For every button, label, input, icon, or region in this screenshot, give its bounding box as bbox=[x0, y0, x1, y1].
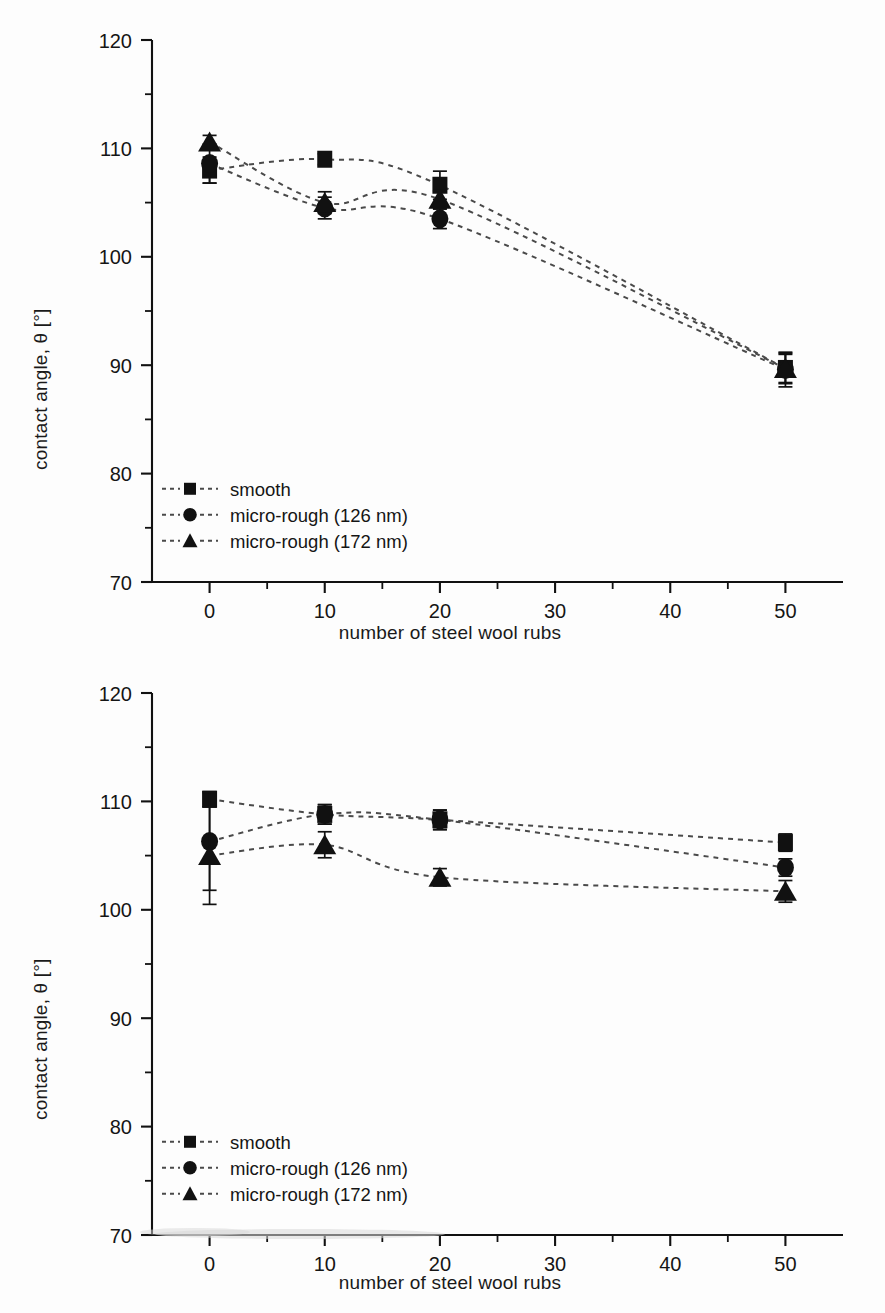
y-tick-label: 90 bbox=[110, 355, 132, 377]
legend-label: micro-rough (172 nm) bbox=[230, 531, 408, 552]
chart-panel-top: 70809010011012001020304050smoothmicro-ro… bbox=[0, 0, 885, 660]
legend-marker-square bbox=[184, 483, 196, 495]
series-lines bbox=[210, 799, 786, 891]
legend-marker-square bbox=[184, 1136, 196, 1148]
marker-circle bbox=[777, 858, 794, 877]
legend-label: micro-rough (126 nm) bbox=[230, 505, 408, 526]
legend-label: micro-rough (126 nm) bbox=[230, 1158, 408, 1179]
legend-marker-triangle bbox=[183, 1186, 198, 1200]
plot-area-top: 70809010011012001020304050smoothmicro-ro… bbox=[0, 0, 885, 660]
marker-triangle bbox=[198, 131, 221, 151]
y-tick-label: 80 bbox=[110, 463, 132, 485]
marker-square bbox=[317, 151, 332, 168]
legend-label: micro-rough (172 nm) bbox=[230, 1184, 408, 1205]
series-line bbox=[210, 799, 786, 842]
scan-smudge bbox=[140, 1228, 250, 1236]
x-tick-label: 50 bbox=[774, 600, 796, 622]
series-lines bbox=[210, 142, 786, 370]
marker-triangle bbox=[198, 845, 221, 865]
legend-item[interactable]: smooth bbox=[162, 1132, 291, 1153]
marker-triangle bbox=[313, 192, 336, 212]
y-tick-label: 110 bbox=[100, 138, 132, 160]
marker-circle bbox=[201, 154, 218, 173]
data-point bbox=[313, 832, 336, 858]
y-tick-label: 110 bbox=[100, 791, 132, 813]
x-tick-label: 30 bbox=[544, 600, 566, 622]
plot-area-bottom: 70809010011012001020304050smoothmicro-ro… bbox=[0, 660, 885, 1313]
data-points bbox=[198, 131, 797, 386]
legend-item[interactable]: micro-rough (126 nm) bbox=[162, 1158, 408, 1179]
legend: smoothmicro-rough (126 nm)micro-rough (1… bbox=[162, 479, 408, 552]
y-tick-label: 100 bbox=[99, 246, 132, 268]
marker-triangle bbox=[428, 189, 451, 209]
y-tick-label: 70 bbox=[110, 1225, 132, 1247]
marker-circle bbox=[431, 810, 448, 829]
data-point bbox=[198, 807, 221, 905]
legend-item[interactable]: smooth bbox=[162, 479, 291, 500]
legend-item[interactable]: micro-rough (172 nm) bbox=[162, 1184, 408, 1205]
y-tick-label: 90 bbox=[110, 1008, 132, 1030]
axes-group: 70809010011012001020304050 bbox=[99, 683, 843, 1276]
chart-panel-bottom: 70809010011012001020304050smoothmicro-ro… bbox=[0, 660, 885, 1313]
series-line bbox=[210, 812, 786, 867]
y-tick-label: 120 bbox=[99, 30, 132, 52]
legend: smoothmicro-rough (126 nm)micro-rough (1… bbox=[162, 1132, 408, 1205]
axes-group: 70809010011012001020304050 bbox=[99, 30, 843, 623]
x-axis-label-bottom: number of steel wool rubs bbox=[60, 1272, 840, 1294]
y-axis-label-top: contact angle, θ [°] bbox=[30, 308, 52, 470]
legend-item[interactable]: micro-rough (126 nm) bbox=[162, 505, 408, 526]
data-point bbox=[428, 867, 451, 887]
y-tick-label: 80 bbox=[110, 1116, 132, 1138]
x-tick-label: 0 bbox=[204, 600, 215, 622]
y-axis-label-bottom: contact angle, θ [°] bbox=[30, 958, 52, 1120]
x-tick-label: 10 bbox=[314, 600, 336, 622]
marker-square bbox=[778, 834, 793, 851]
legend-label: smooth bbox=[230, 1132, 291, 1153]
y-tick-label: 120 bbox=[99, 683, 132, 705]
x-tick-label: 20 bbox=[429, 600, 451, 622]
legend-marker-triangle bbox=[183, 533, 198, 547]
data-point bbox=[778, 834, 793, 851]
data-point bbox=[313, 192, 336, 214]
scan-artifact bbox=[140, 1228, 445, 1239]
data-point bbox=[198, 131, 221, 151]
data-point bbox=[431, 209, 448, 229]
series-line bbox=[210, 159, 786, 369]
axis-spine bbox=[152, 40, 843, 582]
legend-label: smooth bbox=[230, 479, 291, 500]
marker-circle bbox=[431, 209, 448, 228]
marker-triangle bbox=[313, 834, 336, 854]
series-line bbox=[210, 142, 786, 369]
marker-triangle bbox=[428, 867, 451, 887]
x-tick-label: 40 bbox=[659, 600, 681, 622]
marker-circle bbox=[316, 805, 333, 824]
figure-page: 70809010011012001020304050smoothmicro-ro… bbox=[0, 0, 885, 1313]
legend-marker-circle bbox=[183, 508, 197, 522]
series-line bbox=[210, 844, 786, 891]
data-point bbox=[777, 858, 794, 877]
axis-spine bbox=[152, 693, 843, 1235]
data-point bbox=[317, 151, 332, 168]
legend-marker-circle bbox=[183, 1161, 197, 1175]
y-tick-label: 70 bbox=[110, 572, 132, 594]
legend-item[interactable]: micro-rough (172 nm) bbox=[162, 531, 408, 552]
x-axis-label-top: number of steel wool rubs bbox=[60, 622, 840, 644]
y-tick-label: 100 bbox=[99, 899, 132, 921]
data-point bbox=[428, 189, 451, 209]
series-line bbox=[210, 164, 786, 370]
data-points bbox=[198, 791, 797, 905]
